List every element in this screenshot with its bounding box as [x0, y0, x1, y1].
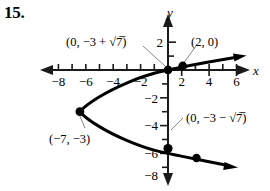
annotation-y-intercept-lower: (0, −3 − √7̅): [186, 111, 247, 125]
y-tick-label--2: −2: [144, 91, 158, 106]
y-tick-label-2: 2: [157, 35, 164, 50]
annotation-y-intercept-upper: (0, −3 + √7̅): [66, 35, 127, 49]
parabola-lower-arrow: [223, 162, 238, 170]
parabola-upper-arrow: [233, 54, 247, 62]
y-axis-name: y: [165, 5, 173, 20]
x-tick-label--8: −8: [51, 74, 65, 89]
y-axis-bottom-arrow: [163, 173, 173, 186]
y-tick-label--4: −4: [144, 118, 158, 133]
coordinate-plane-graph: −8 −6 −4 −2 2 4 6 2 −2 −4 −6 −8 x y: [0, 0, 270, 191]
parabola-upper-branch: [80, 57, 238, 112]
y-tick-labels: 2 −2 −4 −6 −8: [144, 35, 163, 183]
x-tick-label-2: 2: [178, 74, 185, 89]
math-figure: 15.: [0, 0, 270, 191]
y-axis: [163, 14, 173, 186]
y-tick-label--8: −8: [144, 168, 158, 183]
point-lower-branch: [192, 154, 200, 162]
x-tick-label-6: 6: [233, 74, 240, 89]
annotation-vertex: (−7, −3): [49, 132, 90, 146]
leader-y-intercept-lower: [171, 118, 183, 130]
point-y-intercept-lower: [163, 144, 172, 153]
point-x-intercept: [178, 62, 187, 71]
annotation-x-intercept: (2, 0): [191, 35, 218, 49]
x-tick-label-4: 4: [206, 74, 213, 89]
point-y-intercept-upper: [164, 66, 173, 75]
x-axis-name: x: [252, 63, 259, 78]
x-tick-label--6: −6: [79, 74, 93, 89]
problem-number: 15.: [4, 3, 24, 23]
point-vertex: [76, 107, 85, 116]
